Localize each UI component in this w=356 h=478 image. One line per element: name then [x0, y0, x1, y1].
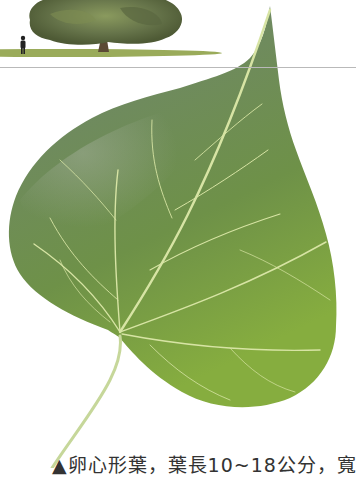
leaf-icon: [9, 6, 337, 468]
leaf-caption: ▲卵心形葉，葉長10~18公分，寬: [52, 452, 356, 478]
divider-line: [0, 67, 356, 68]
tree-icon: [0, 0, 222, 57]
